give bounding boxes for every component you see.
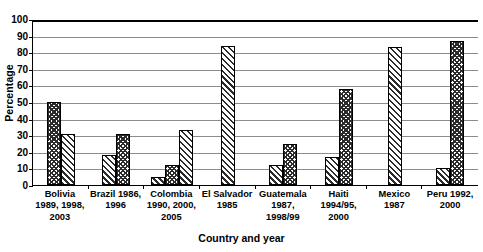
x-tick-label: Guatemala1987,1998/99 <box>255 189 311 231</box>
bar <box>47 102 61 185</box>
x-tick-label: Mexico1987 <box>367 189 423 231</box>
y-tick-label: 20 <box>0 148 28 158</box>
bar <box>221 46 235 185</box>
y-tick-label: 80 <box>0 48 28 58</box>
y-tick-label: 30 <box>0 131 28 141</box>
bar-group <box>89 20 145 185</box>
bar-group <box>200 20 256 185</box>
y-tick-label: 50 <box>0 98 28 108</box>
bar <box>436 168 450 185</box>
bar <box>61 134 75 185</box>
bar-group <box>311 20 367 185</box>
bar <box>388 47 402 185</box>
y-tick-label: 100 <box>0 15 28 25</box>
bar <box>325 157 339 185</box>
bar <box>450 41 464 185</box>
x-tick-label: Bolivia1989, 1998,2003 <box>32 189 88 231</box>
x-axis-ticks: Bolivia1989, 1998,2003Brazil 1986,1996Co… <box>32 189 478 231</box>
bar <box>283 144 297 186</box>
y-tick-label: 60 <box>0 81 28 91</box>
bar <box>339 89 353 185</box>
x-tick-label: Colombia1990, 2000,2005 <box>144 189 200 231</box>
bar <box>269 165 283 185</box>
bar <box>179 130 193 185</box>
bar <box>151 177 165 185</box>
y-tick-label: 0 <box>0 181 28 191</box>
bar-group <box>144 20 200 185</box>
y-axis-ticks: 1009080706050403020100 <box>0 20 28 186</box>
x-tick-label: Peru 1992,2000 <box>422 189 478 231</box>
bar <box>165 165 179 185</box>
bar-groups <box>33 20 478 185</box>
y-tick-label: 40 <box>0 115 28 125</box>
bar-group <box>422 20 478 185</box>
bar-group <box>256 20 312 185</box>
x-tick-label: El Salvador1985 <box>199 189 255 231</box>
y-tick-label: 70 <box>0 65 28 75</box>
bar-chart: Percentage 1009080706050403020100 Bolivi… <box>0 0 483 252</box>
x-axis-title: Country and year <box>0 232 483 244</box>
y-tick-mark <box>29 186 33 187</box>
x-tick-label: Brazil 1986,1996 <box>88 189 144 231</box>
bar <box>116 134 130 185</box>
y-tick-label: 90 <box>0 32 28 42</box>
x-tick-label: Haiti1994/95,2000 <box>311 189 367 231</box>
y-tick-label: 10 <box>0 164 28 174</box>
bar-group <box>367 20 423 185</box>
bar-group <box>33 20 89 185</box>
bar <box>102 155 116 185</box>
plot-area <box>32 20 478 186</box>
